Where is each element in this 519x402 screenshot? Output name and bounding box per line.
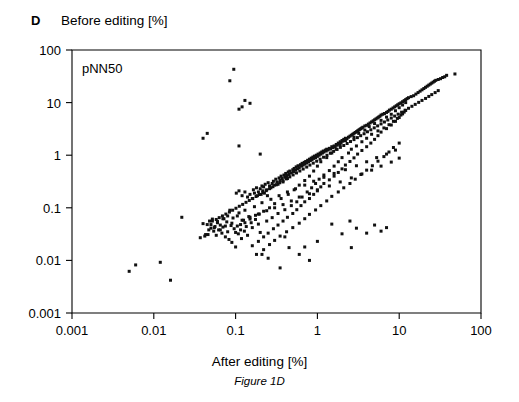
data-point [254,214,257,217]
data-point [341,232,344,235]
data-point [257,223,260,226]
data-point [199,236,202,239]
data-point [308,197,311,200]
data-point [390,124,393,127]
data-point [237,108,240,111]
data-point [290,204,293,207]
x-tick-label: 0.1 [227,323,245,338]
data-point [397,113,400,116]
data-point [221,214,224,217]
data-point [258,193,261,196]
data-point [286,216,289,219]
data-point [241,219,244,222]
data-point [322,156,325,159]
data-point [453,72,456,75]
data-point [255,195,258,198]
data-point [308,164,311,167]
data-point [303,179,306,182]
data-point [232,216,235,219]
data-point [368,125,371,128]
data-point [274,178,277,181]
data-point [398,142,401,145]
data-point [249,216,252,219]
data-point [371,164,374,167]
data-point [159,261,162,264]
data-point [230,222,233,225]
data-point [328,169,331,172]
data-point [390,161,393,164]
y-tick-label: 0.1 [43,201,61,216]
data-point [393,115,396,118]
data-point [305,166,308,169]
data-point [360,140,363,143]
data-point [427,95,430,98]
data-point [231,209,234,212]
data-point [219,228,222,231]
data-point [349,140,352,143]
data-point [312,170,315,173]
data-point [348,182,351,185]
data-point [245,225,248,228]
data-point [221,217,224,220]
data-point [268,206,271,209]
data-point [283,208,286,211]
data-point [348,160,351,163]
y-tick-label: 100 [39,43,61,58]
x-tick-label: 0.001 [56,323,89,338]
data-point [332,150,335,153]
data-point [348,220,351,223]
data-points [128,68,457,282]
data-point [322,176,325,179]
data-point [352,138,355,141]
data-point [369,128,372,131]
y-tick-label: 0.01 [36,253,61,268]
data-point [255,186,258,189]
data-point [430,93,433,96]
data-point [232,68,235,71]
data-point [424,97,427,100]
data-point [264,183,267,186]
data-point [360,172,363,175]
data-point [312,193,315,196]
data-point [237,211,240,214]
y-tick-label: 0.001 [28,306,61,321]
data-point [290,199,293,202]
data-point [373,224,376,227]
data-point [246,196,249,199]
data-point [380,122,383,125]
data-point [341,156,344,159]
data-point [277,224,280,227]
data-point [234,207,237,210]
data-point [278,194,281,197]
data-point [209,223,212,226]
data-point [259,231,262,234]
data-point [252,188,255,191]
x-tick-label: 1 [314,323,321,338]
data-point [273,202,276,205]
data-point [268,243,271,246]
data-point [288,175,291,178]
data-point [303,184,306,187]
data-point [255,253,258,256]
data-point [241,203,244,206]
data-point [303,217,306,220]
data-point [319,160,322,163]
data-point [342,186,345,189]
data-point [401,104,404,107]
data-point [271,185,274,188]
data-point [202,222,205,225]
data-point [215,234,218,237]
data-point [342,144,345,147]
data-point [380,230,383,233]
data-point [328,184,331,187]
data-point [265,189,268,192]
data-point [392,146,395,149]
y-tick-label: 1 [54,148,61,163]
data-point [352,156,355,159]
figure-caption: Figure 1D [0,375,519,387]
data-point [363,132,366,135]
data-point [385,226,388,229]
data-point [241,194,244,197]
data-point [208,220,211,223]
data-point [356,153,359,156]
